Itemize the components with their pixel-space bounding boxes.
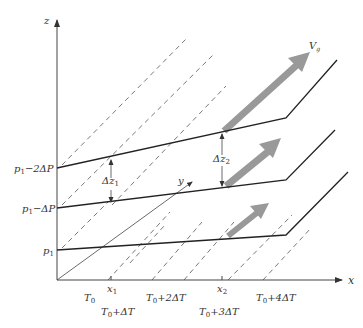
isotherm-label-t0: T0 [84, 292, 95, 305]
isobar-p1-minus-dp [57, 130, 335, 208]
isobar-label-p1-minus-dp: p1−ΔP [22, 203, 55, 216]
z-axis-label: z [43, 15, 50, 26]
isotherm-label-t0-plus-4dt: T0+4ΔT [256, 292, 297, 305]
isotherm-label-t0-plus-3dt: T0+3ΔT [199, 306, 240, 319]
position-label-x2: x2 [217, 283, 227, 296]
thermal-wind-diagram: z x y p1 p1−ΔP p1−2ΔP Δz1 Δz2 x1 x2 T0 T… [0, 0, 363, 328]
isotherm-label-t0-plus-2dt: T0+2ΔT [146, 292, 187, 305]
position-label-x1: x1 [107, 283, 117, 296]
geostrophic-wind-arrows [224, 52, 310, 236]
thickness-label-dz1: Δz1 [101, 175, 119, 188]
y-axis-label: y [177, 175, 184, 186]
isobar-p1-minus-2dp [57, 60, 337, 168]
x-axis-label: x [348, 274, 355, 287]
isobar-label-p1: p1 [43, 245, 54, 258]
isotherm-label-t0-plus-dt: T0+ΔT [101, 306, 136, 319]
wind-arrow-lower [228, 203, 269, 236]
wind-arrow-middle [226, 138, 281, 186]
wind-arrow-upper [224, 52, 310, 131]
geostrophic-wind-label: Vg [309, 40, 320, 53]
isobars [57, 60, 348, 250]
y-axis [57, 182, 192, 280]
thickness-label-dz2: Δz2 [212, 153, 230, 166]
isobar-p1 [57, 172, 348, 250]
isobar-label-p1-minus-2dp: p1−2ΔP [14, 163, 54, 176]
